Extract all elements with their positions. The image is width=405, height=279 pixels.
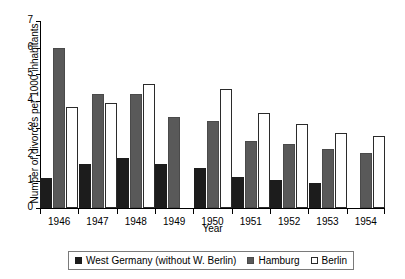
x-axis-title: Year bbox=[40, 223, 385, 234]
legend-label: Hamburg bbox=[258, 255, 299, 266]
legend-entry[interactable]: Berlin bbox=[311, 255, 348, 266]
y-tick-label: 1 bbox=[27, 174, 33, 185]
plot-area: 01234567 1946194719481949195019511952195… bbox=[40, 21, 385, 208]
y-tick: 3 bbox=[36, 128, 41, 129]
bar bbox=[373, 136, 385, 208]
y-tick: 5 bbox=[36, 74, 41, 75]
x-tick bbox=[155, 209, 156, 214]
bar bbox=[232, 177, 244, 208]
x-tick bbox=[347, 209, 348, 214]
bar bbox=[220, 89, 232, 208]
bar bbox=[92, 94, 104, 208]
x-tick bbox=[270, 209, 271, 214]
x-tick bbox=[384, 209, 385, 214]
legend-swatch-icon bbox=[311, 257, 318, 264]
chart-figure: Number of divorces per 1000 inhabitants … bbox=[0, 0, 405, 279]
bar bbox=[296, 124, 308, 208]
y-tick-label: 0 bbox=[27, 201, 33, 212]
legend-swatch-icon bbox=[75, 257, 82, 264]
bar bbox=[283, 144, 295, 208]
x-tick bbox=[308, 209, 309, 214]
y-tick-label: 4 bbox=[27, 94, 33, 105]
x-tick bbox=[193, 209, 194, 214]
bar bbox=[40, 178, 52, 208]
x-tick bbox=[78, 209, 79, 214]
bar bbox=[130, 94, 142, 208]
x-tick bbox=[40, 209, 41, 214]
bar bbox=[155, 164, 167, 208]
y-tick-label: 5 bbox=[27, 67, 33, 78]
bar bbox=[360, 153, 372, 208]
bar bbox=[309, 183, 321, 208]
bar bbox=[207, 121, 219, 208]
y-tick-label: 7 bbox=[27, 14, 33, 25]
x-tick bbox=[117, 209, 118, 214]
y-tick: 7 bbox=[36, 21, 41, 22]
y-tick: 2 bbox=[36, 155, 41, 156]
legend-entry[interactable]: West Germany (without W. Berlin) bbox=[75, 255, 236, 266]
legend-entry[interactable]: Hamburg bbox=[247, 255, 299, 266]
chart-legend: West Germany (without W. Berlin)HamburgB… bbox=[68, 251, 354, 270]
bar bbox=[258, 113, 270, 208]
legend-swatch-icon bbox=[247, 257, 254, 264]
y-tick-label: 6 bbox=[27, 41, 33, 52]
y-tick-label: 2 bbox=[27, 148, 33, 159]
bar bbox=[194, 168, 206, 208]
bar bbox=[66, 107, 78, 208]
bar bbox=[168, 117, 180, 208]
bar bbox=[270, 180, 282, 208]
y-tick-label: 3 bbox=[27, 121, 33, 132]
legend-label: Berlin bbox=[322, 255, 348, 266]
bar bbox=[53, 48, 65, 208]
bar bbox=[117, 158, 129, 208]
bar bbox=[245, 141, 257, 208]
bar bbox=[79, 164, 91, 208]
bar bbox=[105, 103, 117, 208]
bar bbox=[143, 84, 155, 208]
x-tick bbox=[232, 209, 233, 214]
bar bbox=[335, 133, 347, 208]
y-tick: 6 bbox=[36, 48, 41, 49]
bar bbox=[322, 149, 334, 208]
y-tick: 4 bbox=[36, 101, 41, 102]
x-axis-line bbox=[40, 208, 385, 209]
legend-label: West Germany (without W. Berlin) bbox=[86, 255, 236, 266]
